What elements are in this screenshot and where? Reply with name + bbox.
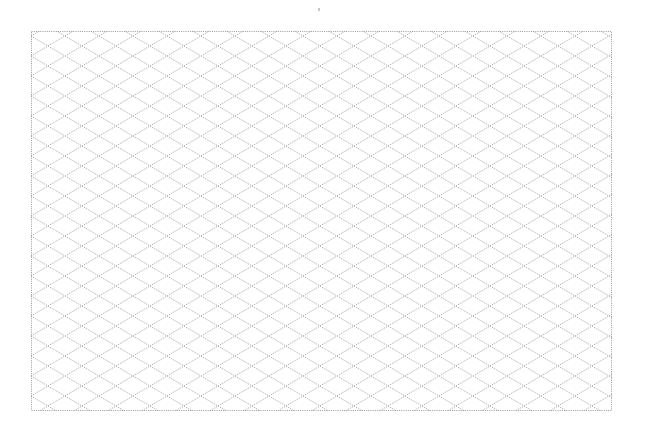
isometric-paper-sheet [0,0,645,434]
stray-mark [318,8,320,11]
isometric-grid-svg [31,31,612,411]
grid-pattern-fill [31,31,612,411]
isometric-grid [31,31,612,411]
